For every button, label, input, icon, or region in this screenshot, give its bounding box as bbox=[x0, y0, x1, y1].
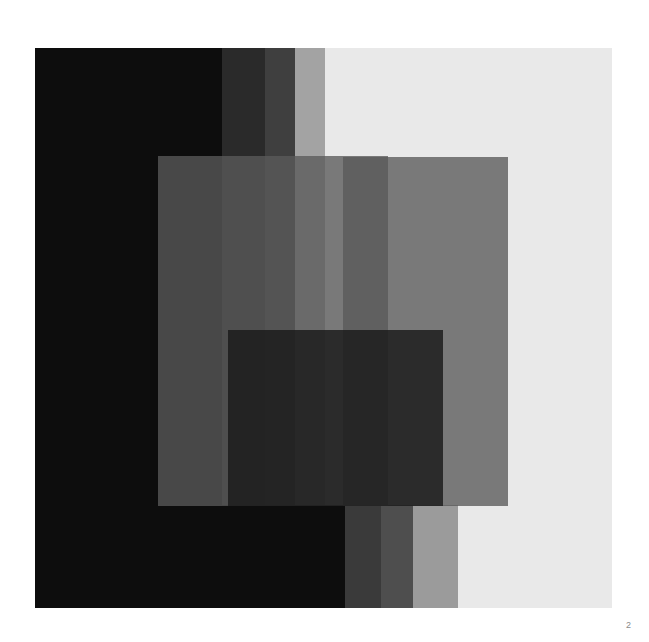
artwork-plate bbox=[35, 48, 612, 608]
footband-light bbox=[458, 505, 612, 608]
overlay-inner-dark bbox=[228, 330, 443, 506]
footband-black bbox=[35, 505, 345, 608]
footband-mid-dark bbox=[381, 505, 413, 608]
footband-dark bbox=[345, 505, 381, 608]
page-canvas: 2 bbox=[0, 0, 649, 642]
footband-mid-gray bbox=[413, 505, 458, 608]
page-number: 2 bbox=[626, 621, 631, 630]
